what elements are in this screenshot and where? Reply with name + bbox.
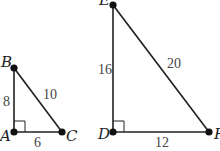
vertex-e-label: E xyxy=(98,0,110,9)
triangle-def: E D F 16 20 12 xyxy=(97,0,220,150)
vertex-d-dot xyxy=(109,128,116,135)
side-ac-length: 6 xyxy=(34,135,41,150)
vertex-d-label: D xyxy=(97,125,110,143)
triangle-def-outline xyxy=(113,5,209,132)
similar-triangles-diagram: B A C 8 10 6 E D F 16 20 12 xyxy=(0,0,220,151)
vertex-f-label: F xyxy=(213,125,220,143)
vertex-a-label: A xyxy=(0,127,11,145)
vertex-f-dot xyxy=(205,128,212,135)
vertex-a-dot xyxy=(10,128,17,135)
vertex-c-label: C xyxy=(66,127,78,145)
diagram-svg: B A C 8 10 6 E D F 16 20 12 xyxy=(0,0,220,151)
side-de-length: 16 xyxy=(98,62,112,77)
side-df-length: 12 xyxy=(155,135,169,150)
triangle-abc: B A C 8 10 6 xyxy=(0,53,78,150)
side-ab-length: 8 xyxy=(3,94,10,109)
vertex-e-dot xyxy=(109,1,116,8)
vertex-b-label: B xyxy=(0,53,12,71)
side-ef-length: 20 xyxy=(167,56,181,71)
vertex-c-dot xyxy=(58,128,65,135)
side-bc-length: 10 xyxy=(43,87,57,102)
